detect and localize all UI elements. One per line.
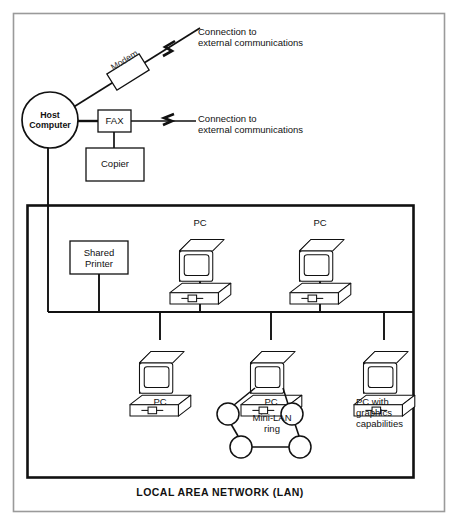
fax-external-link-label: Connection toexternal communications (198, 113, 303, 135)
modem-external-link-label: Connection toexternal communications (198, 26, 303, 48)
mini-lan-label-line2: ring (264, 423, 280, 434)
host-computer-label: HostComputer (22, 111, 78, 131)
shared-printer-label-line1: Shared (84, 247, 115, 258)
ring-node-bottom-left (230, 436, 252, 458)
ring-node-bottom-right (289, 436, 311, 458)
copier-label: Copier (86, 158, 144, 169)
pc-graphics-label-line2: graphics (356, 407, 392, 418)
diagram-vector-layer (0, 0, 458, 525)
fax-link-label-line1: Connection to (198, 113, 257, 124)
shared-printer-label-line2: Printer (85, 258, 113, 269)
pc-top-left-label: PC (184, 217, 216, 228)
host-label-line2: Computer (29, 120, 71, 130)
shared-printer-label: SharedPrinter (70, 247, 128, 269)
modem-link-label-line2: external communications (198, 37, 303, 48)
modem-link-break-icon (163, 41, 175, 56)
mini-lan-ring-label: Mini-LANring (236, 412, 308, 434)
fax-link-break-icon (163, 114, 174, 125)
figure-caption: LOCAL AREA NETWORK (LAN) (27, 486, 413, 498)
pc-graphics-label-line3: capabilities (356, 418, 403, 429)
fax-label: FAX (98, 115, 131, 126)
pc-graphics-label-line1: PC with (356, 396, 389, 407)
mini-lan-label-line1: Mini-LAN (252, 412, 291, 423)
pc-top-left-icon (170, 240, 231, 305)
host-label-line1: Host (40, 110, 60, 120)
diagram-canvas: HostComputer Modem FAX Copier SharedPrin… (0, 0, 458, 525)
pc-bottom-mid-label: PC (255, 396, 287, 407)
pc-top-right-icon (290, 240, 351, 305)
pc-top-right-label: PC (304, 217, 336, 228)
fax-link-label-line2: external communications (198, 124, 303, 135)
pc-bottom-right-label: PC withgraphicscapabilities (356, 396, 403, 430)
pc-bottom-left-label: PC (144, 396, 176, 407)
modem-link-label-line1: Connection to (198, 26, 257, 37)
